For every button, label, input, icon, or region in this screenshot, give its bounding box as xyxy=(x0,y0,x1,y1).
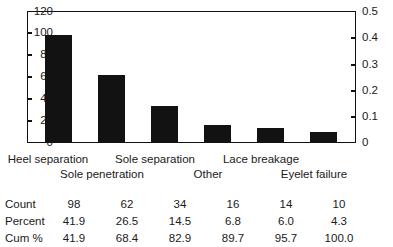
cell-cum-sole-penetration: 68.4 xyxy=(105,230,149,247)
bar-other[interactable] xyxy=(204,125,231,143)
cell-cum-eyelet-failure: 100.0 xyxy=(317,230,361,247)
category-label-sole-separation: Sole separation xyxy=(95,153,215,166)
bar-sole-penetration[interactable] xyxy=(98,75,125,143)
category-label-lace-breakage: Lace breakage xyxy=(201,153,321,166)
pareto-chart: 120 100 80 60 40 20 0 0.5 0.4 0.3 0.2 0.… xyxy=(0,0,393,247)
cell-percent-eyelet-failure: 4.3 xyxy=(317,213,361,230)
y2-axis-tick-0_1: 0.1 xyxy=(362,111,378,123)
cell-count-lace-breakage: 14 xyxy=(264,196,308,213)
cell-count-sole-penetration: 62 xyxy=(105,196,149,213)
y2-axis-tick-0_4: 0.4 xyxy=(362,32,378,44)
bars-layer xyxy=(27,11,356,143)
table-row-label-count: Count xyxy=(5,196,36,213)
bar-lace-breakage[interactable] xyxy=(257,128,284,143)
cell-cum-sole-separation: 82.9 xyxy=(158,230,202,247)
y2-axis-tick-0_2: 0.2 xyxy=(362,85,378,97)
cell-percent-lace-breakage: 6.0 xyxy=(264,213,308,230)
category-label-heel-separation: Heel separation xyxy=(0,153,108,166)
bar-heel-separation[interactable] xyxy=(45,35,72,143)
cell-count-other: 16 xyxy=(211,196,255,213)
cell-cum-lace-breakage: 95.7 xyxy=(264,230,308,247)
cell-count-heel-separation: 98 xyxy=(52,196,96,213)
y2-axis-tick-0_3: 0.3 xyxy=(362,59,378,71)
bar-eyelet-failure[interactable] xyxy=(310,132,337,143)
category-label-eyelet-failure: Eyelet failure xyxy=(254,168,374,181)
cell-cum-other: 89.7 xyxy=(211,230,255,247)
cell-percent-other: 6.8 xyxy=(211,213,255,230)
table-row-count: Count 98 62 34 16 14 10 xyxy=(0,196,393,213)
cell-count-sole-separation: 34 xyxy=(158,196,202,213)
bar-sole-separation[interactable] xyxy=(151,106,178,143)
cell-percent-heel-separation: 41.9 xyxy=(52,213,96,230)
cell-cum-heel-separation: 41.9 xyxy=(52,230,96,247)
cell-percent-sole-separation: 14.5 xyxy=(158,213,202,230)
cell-percent-sole-penetration: 26.5 xyxy=(105,213,149,230)
y2-axis-tick-0_5: 0.5 xyxy=(362,6,378,18)
summary-table: Count 98 62 34 16 14 10 Percent 41.9 26.… xyxy=(0,196,393,247)
category-label-other: Other xyxy=(148,168,268,181)
table-row-cum-percent: Cum % 41.9 68.4 82.9 89.7 95.7 100.0 xyxy=(0,230,393,247)
y2-axis-tick-0: 0 xyxy=(362,137,368,149)
cell-count-eyelet-failure: 10 xyxy=(317,196,361,213)
table-row-label-percent: Percent xyxy=(5,213,45,230)
category-label-sole-penetration: Sole penetration xyxy=(42,168,162,181)
table-row-percent: Percent 41.9 26.5 14.5 6.8 6.0 4.3 xyxy=(0,213,393,230)
table-row-label-cum-percent: Cum % xyxy=(5,230,43,247)
category-axis-labels: Heel separation Sole penetration Sole se… xyxy=(0,152,393,188)
